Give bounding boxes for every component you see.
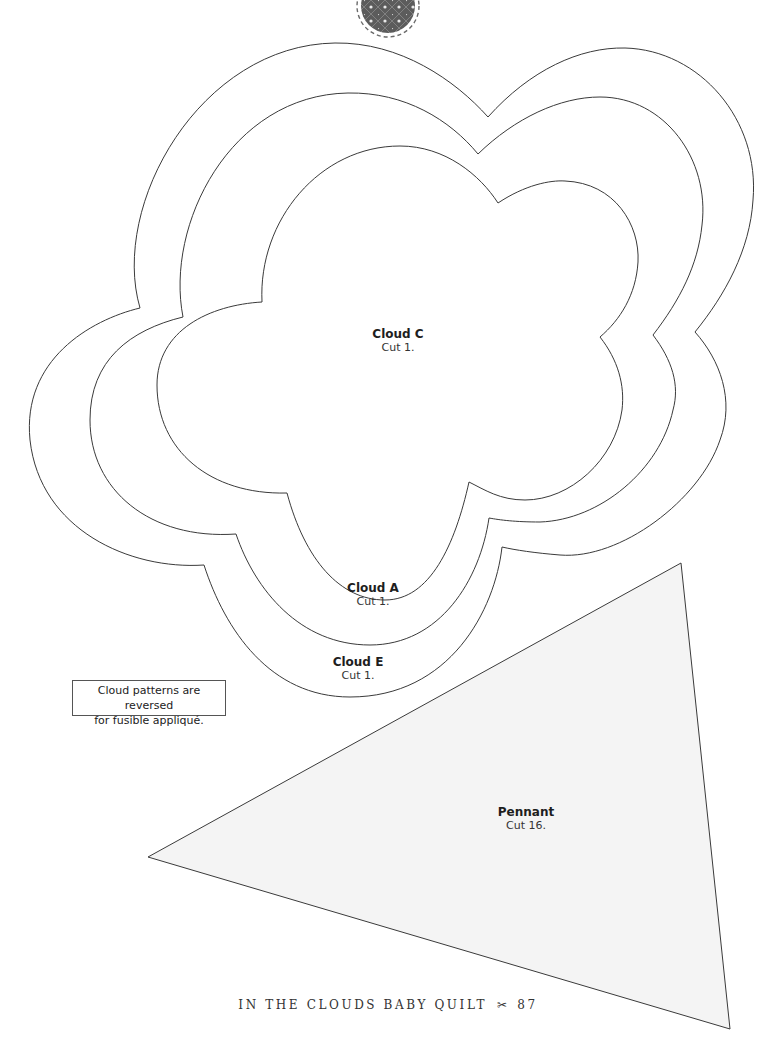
scissors-icon: ✂ — [497, 998, 507, 1012]
book-title: IN THE CLOUDS BABY QUILT — [238, 998, 487, 1012]
pattern-instruction: Cut 1. — [333, 596, 413, 609]
pattern-instruction: Cut 1. — [318, 670, 398, 683]
note-line-2: for fusible appliqué. — [73, 713, 225, 728]
page-number: 87 — [517, 998, 537, 1012]
pattern-name: Cloud E — [318, 656, 398, 670]
cloud-a-outline — [90, 93, 703, 645]
note-line-1: Cloud patterns are reversed — [73, 683, 225, 713]
cloud-c-outline — [157, 146, 638, 600]
pattern-instruction: Cut 1. — [358, 342, 438, 355]
pattern-name: Pennant — [486, 806, 566, 820]
fabric-swatch-icon — [357, 0, 419, 37]
cloud-a-label: Cloud A Cut 1. — [333, 582, 413, 608]
pattern-name: Cloud C — [358, 328, 438, 342]
pattern-name: Cloud A — [333, 582, 413, 596]
pennant-label: Pennant Cut 16. — [486, 806, 566, 832]
pattern-instruction: Cut 16. — [486, 820, 566, 833]
pennant-outline — [148, 563, 730, 1029]
cloud-c-label: Cloud C Cut 1. — [358, 328, 438, 354]
cloud-e-label: Cloud E Cut 1. — [318, 656, 398, 682]
pattern-artwork — [0, 0, 776, 1042]
reversed-patterns-note: Cloud patterns are reversed for fusible … — [72, 680, 226, 716]
page-footer: IN THE CLOUDS BABY QUILT✂87 — [0, 998, 776, 1012]
